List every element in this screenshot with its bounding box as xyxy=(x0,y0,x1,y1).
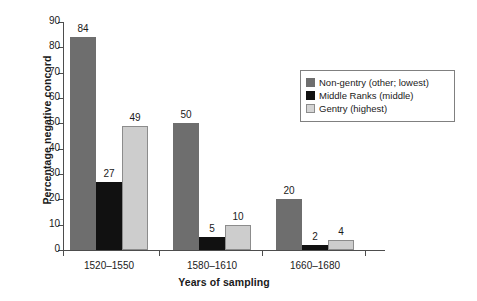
bar-value-label: 10 xyxy=(219,211,257,222)
x-axis-category-label: 1580–1610 xyxy=(167,260,257,271)
y-axis-tick-label: 80 xyxy=(49,40,60,51)
bar-value-label: 27 xyxy=(90,168,128,179)
y-axis-tick-label: 20 xyxy=(49,192,60,203)
x-axis-category-label: 1660–1680 xyxy=(270,260,360,271)
bar xyxy=(302,245,328,250)
bar-value-label: 49 xyxy=(116,112,154,123)
y-axis-line xyxy=(63,22,64,251)
legend-item-label: Gentry (highest) xyxy=(319,103,387,114)
legend-item-label: Middle Ranks (middle) xyxy=(319,90,414,101)
legend-item: Middle Ranks (middle) xyxy=(306,90,448,101)
plot-area: 0102030405060708090 842749505102024 1520… xyxy=(63,22,385,250)
y-axis-tick-label: 0 xyxy=(54,243,60,254)
bar xyxy=(122,126,148,250)
x-axis-title: Years of sampling xyxy=(63,276,385,288)
x-axis-line xyxy=(63,250,385,251)
y-axis-tick-label: 70 xyxy=(49,66,60,77)
chart-legend: Non-gentry (other; lowest)Middle Ranks (… xyxy=(300,70,455,122)
legend-swatch-icon xyxy=(306,91,315,100)
x-axis-tick-mark xyxy=(159,251,160,256)
y-axis-tick-label: 30 xyxy=(49,167,60,178)
y-axis-tick-label: 40 xyxy=(49,142,60,153)
bar-chart: Percentage negative concord 010203040506… xyxy=(0,0,477,301)
bar xyxy=(70,37,96,250)
bar-value-label: 4 xyxy=(322,226,360,237)
bar xyxy=(276,199,302,250)
y-axis-tick-label: 10 xyxy=(49,218,60,229)
legend-swatch-icon xyxy=(306,78,315,87)
legend-item: Non-gentry (other; lowest) xyxy=(306,77,448,88)
y-axis-tick-label: 50 xyxy=(49,116,60,127)
bar-value-label: 50 xyxy=(167,109,205,120)
legend-swatch-icon xyxy=(306,104,315,113)
bar-value-label: 84 xyxy=(64,23,102,34)
bar xyxy=(199,237,225,250)
legend-item-label: Non-gentry (other; lowest) xyxy=(319,77,429,88)
x-axis-category-label: 1520–1550 xyxy=(64,260,154,271)
x-axis-tick-mark xyxy=(63,251,64,256)
y-axis-tick-label: 90 xyxy=(49,15,60,26)
bar-value-label: 5 xyxy=(193,223,231,234)
bar xyxy=(96,182,122,250)
x-axis-tick-mark xyxy=(365,251,366,256)
x-axis-tick-mark xyxy=(262,251,263,256)
legend-item: Gentry (highest) xyxy=(306,103,448,114)
bar-value-label: 20 xyxy=(270,185,308,196)
y-axis-tick-label: 60 xyxy=(49,91,60,102)
